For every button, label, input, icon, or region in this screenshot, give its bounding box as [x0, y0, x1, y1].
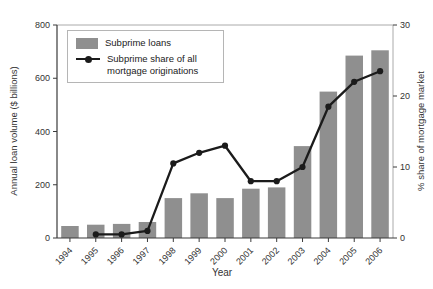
- bar-1994: [61, 226, 78, 238]
- marker-1995: [93, 231, 99, 237]
- x-tick-label-1995: 1995: [79, 245, 100, 266]
- right-tick-label-30: 30: [400, 20, 410, 30]
- left-tick-label-400: 400: [35, 127, 50, 137]
- line-swatch-dot: [85, 56, 92, 63]
- marker-1998: [170, 160, 176, 166]
- marker-2004: [325, 104, 331, 110]
- bar-1999: [190, 193, 208, 238]
- x-tick-label-2005: 2005: [337, 245, 358, 266]
- x-tick-label-2000: 2000: [208, 245, 229, 266]
- bar-swatch-icon: [76, 38, 98, 49]
- subprime-loans-chart: 0200400600800010203019941995199619971998…: [0, 0, 433, 289]
- marker-2005: [351, 79, 357, 85]
- right-tick-label-10: 10: [400, 162, 410, 172]
- legend-item-subprime-share: Subprime share of all mortgage originati…: [76, 53, 213, 76]
- bar-2000: [216, 198, 234, 238]
- right-tick-label-0: 0: [400, 233, 405, 243]
- marker-2003: [299, 164, 305, 170]
- marker-1997: [144, 228, 150, 234]
- bar-2002: [268, 187, 286, 238]
- marker-1999: [196, 150, 202, 156]
- x-tick-label-2003: 2003: [286, 245, 307, 266]
- bar-2004: [320, 92, 338, 238]
- x-axis-title: Year: [212, 267, 232, 278]
- bar-2001: [242, 189, 260, 238]
- x-tick-label-2002: 2002: [260, 245, 281, 266]
- x-tick-label-1997: 1997: [131, 245, 152, 266]
- marker-2002: [274, 178, 280, 184]
- right-axis-title: % share of mortgage market: [415, 71, 426, 191]
- left-tick-label-0: 0: [45, 233, 50, 243]
- x-tick-label-1996: 1996: [105, 245, 126, 266]
- left-tick-label-800: 800: [35, 20, 50, 30]
- x-tick-label-2006: 2006: [363, 245, 384, 266]
- marker-2001: [248, 178, 254, 184]
- x-tick-label-1998: 1998: [156, 245, 177, 266]
- left-tick-label-600: 600: [35, 73, 50, 83]
- x-tick-label-2001: 2001: [234, 245, 255, 266]
- marker-2000: [222, 143, 228, 149]
- x-tick-label-2004: 2004: [312, 245, 333, 266]
- right-tick-label-20: 20: [400, 91, 410, 101]
- legend-label-subprime-share: Subprime share of all mortgage originati…: [107, 53, 213, 76]
- bar-1998: [165, 198, 183, 238]
- legend-item-subprime-loans: Subprime loans: [76, 37, 213, 49]
- marker-2006: [377, 68, 383, 74]
- left-tick-label-200: 200: [35, 180, 50, 190]
- marker-1996: [119, 231, 125, 237]
- share-line: [96, 71, 380, 234]
- legend: Subprime loans Subprime share of all mor…: [67, 30, 224, 83]
- left-axis-title: Annual loan volume ($ billions): [8, 66, 19, 195]
- bar-2003: [294, 146, 312, 238]
- line-marker-swatch-icon: [76, 53, 100, 65]
- legend-label-subprime-loans: Subprime loans: [105, 37, 171, 49]
- x-tick-label-1994: 1994: [53, 245, 74, 266]
- bar-2006: [371, 50, 389, 238]
- x-tick-label-1999: 1999: [182, 245, 203, 266]
